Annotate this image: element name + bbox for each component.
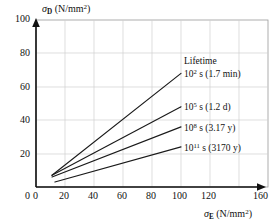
series-label-2-base: 10	[184, 102, 194, 112]
series-label-4-rest: s (3170 y)	[200, 143, 241, 153]
y-tick-label-100: 100	[2, 14, 30, 24]
y-axis-title-unit: (N/mm	[55, 3, 84, 14]
x-tick-label-40: 40	[88, 191, 98, 201]
series-label-1: 102 s (1.7 min)	[184, 69, 241, 79]
series-label-3-base: 10	[184, 123, 194, 133]
y-tick-label-40: 40	[2, 115, 30, 125]
x-axis-title-paren: )	[249, 208, 252, 219]
y-tick-label-0: 0	[2, 191, 30, 201]
series-label-4: 1011 s (3170 y)	[184, 143, 241, 153]
series-label-2: 105 s (1.2 d)	[184, 102, 231, 112]
x-tick-label-160: 160	[253, 191, 268, 201]
series-label-3-rest: s (3.17 y)	[197, 123, 236, 133]
x-tick-label-20: 20	[59, 191, 69, 201]
chart-canvas	[0, 0, 277, 224]
x-tick-label-60: 60	[117, 191, 127, 201]
series-label-1-rest: s (1.7 min)	[197, 69, 241, 79]
y-axis-title-paren: )	[87, 3, 90, 14]
legend-header-lifetime: Lifetime	[184, 57, 217, 67]
y-tick-label-60: 60	[2, 82, 30, 92]
series-label-2-rest: s (1.2 d)	[197, 102, 231, 112]
series-label-1-base: 10	[184, 69, 194, 79]
x-axis-title-unit: (N/mm	[216, 208, 245, 219]
x-axis-title: σE (N/mm2)	[204, 209, 252, 221]
series-label-4-base: 10	[184, 143, 194, 153]
series-label-3: 108 s (3.17 y)	[184, 123, 235, 133]
x-tick-label-80: 80	[146, 191, 156, 201]
y-tick-label-20: 20	[2, 149, 30, 159]
y-axis-title: σD (N/mm2)	[42, 4, 90, 16]
chart-figure: σD (N/mm2) σE (N/mm2) 100 80 60 40 20 0 …	[0, 0, 277, 224]
y-tick-label-80: 80	[2, 48, 30, 58]
x-tick-label-120: 120	[201, 191, 216, 201]
x-tick-label-0: 0	[33, 191, 38, 201]
x-tick-label-100: 100	[172, 191, 187, 201]
